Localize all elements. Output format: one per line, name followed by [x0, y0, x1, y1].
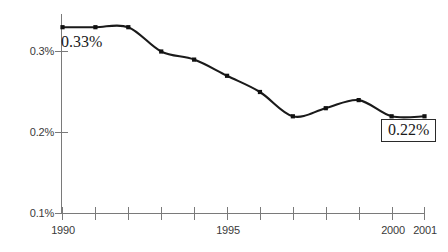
data-point-1995 — [225, 74, 229, 78]
y-axis-label-0.3: 0.3% — [14, 45, 54, 57]
data-point-2001 — [422, 114, 426, 118]
y-axis-label-0.1: 0.1% — [14, 207, 54, 219]
data-line-series-1 — [63, 25, 425, 117]
data-point-1991 — [93, 25, 97, 29]
data-point-1990 — [60, 25, 64, 29]
annotation-start-value: 0.33% — [61, 33, 102, 51]
data-point-1992 — [126, 25, 130, 29]
y-axis-label-0.2: 0.2% — [14, 126, 54, 138]
line-chart: 0.3% 0.2% 0.1% 1990 1995 2000 2001 0.33%… — [0, 0, 448, 252]
x-axis-label-2001: 2001 — [404, 224, 446, 236]
data-point-1998 — [324, 106, 328, 110]
data-point-1994 — [192, 58, 196, 62]
x-axis-label-1990: 1990 — [42, 224, 84, 236]
data-point-1993 — [159, 49, 163, 53]
x-axis-label-1995: 1995 — [207, 224, 249, 236]
data-point-1999 — [357, 98, 361, 102]
annotation-end-value: 0.22% — [381, 119, 436, 142]
data-point-1997 — [291, 114, 295, 118]
data-point-2000 — [389, 114, 393, 118]
data-point-1996 — [258, 90, 262, 94]
